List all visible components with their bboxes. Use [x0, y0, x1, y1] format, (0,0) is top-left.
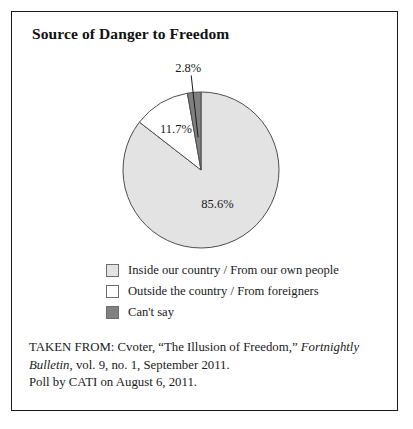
source-note-line-1-italic: Fortnightly [301, 340, 359, 354]
page-title: Source of Danger to Freedom [32, 25, 229, 43]
legend-swatch-icon-inside-our-country [106, 264, 119, 277]
source-note-line-2-italic: Bulletin [29, 358, 70, 372]
pie-value-label-outside-the-country: 11.7% [160, 122, 192, 136]
pie-value-label-cant-say: 2.8% [175, 61, 201, 75]
legend-label-outside-the-country: Outside the country / From foreigners [128, 285, 319, 298]
pie-chart: 2.8% 11.7% 85.6% [12, 50, 396, 260]
legend-item-inside-our-country[interactable]: Inside our country / From our own people [106, 260, 386, 281]
legend-item-cant-say[interactable]: Can't say [106, 302, 386, 323]
legend-label-inside-our-country: Inside our country / From our own people [128, 264, 339, 277]
pie-chart-svg: 2.8% 11.7% 85.6% [12, 50, 396, 260]
legend-swatch-icon-cant-say [106, 306, 119, 319]
source-note-line-2-plain: , vol. 9, no. 1, September 2011. [70, 358, 230, 372]
source-note: TAKEN FROM: Cvoter, “The Illusion of Fre… [29, 339, 384, 392]
source-note-line-1-plain: TAKEN FROM: Cvoter, “The Illusion of Fre… [29, 340, 301, 354]
legend-item-outside-the-country[interactable]: Outside the country / From foreigners [106, 281, 386, 302]
pie-value-label-inside-our-country: 85.6% [201, 197, 233, 211]
figure-frame: Source of Danger to Freedom 2.8% 11.7% 8… [11, 11, 398, 411]
source-note-line-2: Bulletin, vol. 9, no. 1, September 2011. [29, 357, 384, 375]
source-note-line-1: TAKEN FROM: Cvoter, “The Illusion of Fre… [29, 339, 384, 357]
legend-swatch-icon-outside-the-country [106, 285, 119, 298]
legend: Inside our country / From our own people… [106, 260, 386, 323]
source-note-line-3: Poll by CATI on August 6, 2011. [29, 374, 384, 392]
legend-label-cant-say: Can't say [128, 306, 174, 319]
